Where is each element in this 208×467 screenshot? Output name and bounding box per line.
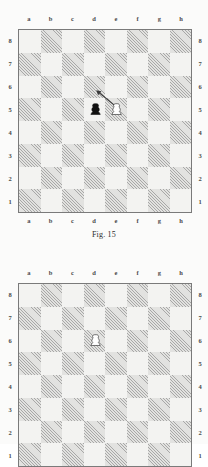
- square-f7[interactable]: [127, 53, 149, 76]
- square-f3[interactable]: [127, 398, 149, 421]
- square-a5[interactable]: [19, 98, 41, 121]
- square-b2[interactable]: [41, 421, 63, 444]
- square-f7[interactable]: [127, 307, 149, 330]
- square-b7[interactable]: [41, 53, 63, 76]
- square-c5[interactable]: [62, 98, 84, 121]
- square-c7[interactable]: [62, 53, 84, 76]
- square-a2[interactable]: [19, 167, 41, 190]
- square-b8[interactable]: [41, 284, 63, 307]
- square-e1[interactable]: [105, 189, 127, 212]
- square-d3[interactable]: [84, 398, 106, 421]
- square-c4[interactable]: [62, 375, 84, 398]
- square-g8[interactable]: [148, 30, 170, 53]
- square-e5[interactable]: [105, 352, 127, 375]
- square-b8[interactable]: [41, 30, 63, 53]
- square-c8[interactable]: [62, 30, 84, 53]
- square-e7[interactable]: [105, 53, 127, 76]
- square-d4[interactable]: [84, 121, 106, 144]
- square-g4[interactable]: [148, 121, 170, 144]
- square-c6[interactable]: [62, 330, 84, 353]
- chessboard-2[interactable]: [18, 283, 192, 467]
- square-a6[interactable]: [19, 330, 41, 353]
- square-f1[interactable]: [127, 443, 149, 466]
- square-d7[interactable]: [84, 53, 106, 76]
- square-b4[interactable]: [41, 375, 63, 398]
- square-c2[interactable]: [62, 167, 84, 190]
- square-d7[interactable]: [84, 307, 106, 330]
- square-h3[interactable]: [170, 144, 192, 167]
- square-c7[interactable]: [62, 307, 84, 330]
- square-d2[interactable]: [84, 421, 106, 444]
- square-d3[interactable]: [84, 144, 106, 167]
- square-b6[interactable]: [41, 76, 63, 99]
- square-g5[interactable]: [148, 352, 170, 375]
- square-f2[interactable]: [127, 421, 149, 444]
- square-a7[interactable]: [19, 307, 41, 330]
- square-h8[interactable]: [170, 30, 192, 53]
- square-d6[interactable]: [84, 76, 106, 99]
- square-h7[interactable]: [170, 53, 192, 76]
- square-g2[interactable]: [148, 167, 170, 190]
- square-e5[interactable]: [105, 98, 127, 121]
- square-b5[interactable]: [41, 352, 63, 375]
- square-c1[interactable]: [62, 189, 84, 212]
- square-h4[interactable]: [170, 121, 192, 144]
- square-a1[interactable]: [19, 189, 41, 212]
- square-h5[interactable]: [170, 352, 192, 375]
- square-e8[interactable]: [105, 30, 127, 53]
- square-g7[interactable]: [148, 307, 170, 330]
- square-g3[interactable]: [148, 398, 170, 421]
- square-b3[interactable]: [41, 398, 63, 421]
- square-h2[interactable]: [170, 167, 192, 190]
- square-g2[interactable]: [148, 421, 170, 444]
- square-d6[interactable]: [84, 330, 106, 353]
- square-b3[interactable]: [41, 144, 63, 167]
- square-a7[interactable]: [19, 53, 41, 76]
- square-c5[interactable]: [62, 352, 84, 375]
- square-f4[interactable]: [127, 121, 149, 144]
- square-f5[interactable]: [127, 352, 149, 375]
- square-e3[interactable]: [105, 144, 127, 167]
- square-e6[interactable]: [105, 330, 127, 353]
- square-h7[interactable]: [170, 307, 192, 330]
- square-g3[interactable]: [148, 144, 170, 167]
- square-a2[interactable]: [19, 421, 41, 444]
- square-h6[interactable]: [170, 330, 192, 353]
- square-c4[interactable]: [62, 121, 84, 144]
- square-b5[interactable]: [41, 98, 63, 121]
- square-f2[interactable]: [127, 167, 149, 190]
- square-h4[interactable]: [170, 375, 192, 398]
- square-e7[interactable]: [105, 307, 127, 330]
- square-a3[interactable]: [19, 398, 41, 421]
- square-c1[interactable]: [62, 443, 84, 466]
- square-f8[interactable]: [127, 284, 149, 307]
- square-a8[interactable]: [19, 30, 41, 53]
- square-e1[interactable]: [105, 443, 127, 466]
- square-g1[interactable]: [148, 443, 170, 466]
- square-d1[interactable]: [84, 189, 106, 212]
- square-h8[interactable]: [170, 284, 192, 307]
- square-e4[interactable]: [105, 121, 127, 144]
- square-g6[interactable]: [148, 76, 170, 99]
- square-d5[interactable]: [84, 352, 106, 375]
- square-g7[interactable]: [148, 53, 170, 76]
- square-f6[interactable]: [127, 76, 149, 99]
- square-d8[interactable]: [84, 30, 106, 53]
- square-b4[interactable]: [41, 121, 63, 144]
- square-c2[interactable]: [62, 421, 84, 444]
- square-h1[interactable]: [170, 443, 192, 466]
- square-f1[interactable]: [127, 189, 149, 212]
- square-f8[interactable]: [127, 30, 149, 53]
- square-a3[interactable]: [19, 144, 41, 167]
- square-b1[interactable]: [41, 443, 63, 466]
- square-a1[interactable]: [19, 443, 41, 466]
- square-e8[interactable]: [105, 284, 127, 307]
- square-c6[interactable]: [62, 76, 84, 99]
- square-h5[interactable]: [170, 98, 192, 121]
- square-e3[interactable]: [105, 398, 127, 421]
- square-g8[interactable]: [148, 284, 170, 307]
- square-g4[interactable]: [148, 375, 170, 398]
- square-f4[interactable]: [127, 375, 149, 398]
- square-d4[interactable]: [84, 375, 106, 398]
- square-h1[interactable]: [170, 189, 192, 212]
